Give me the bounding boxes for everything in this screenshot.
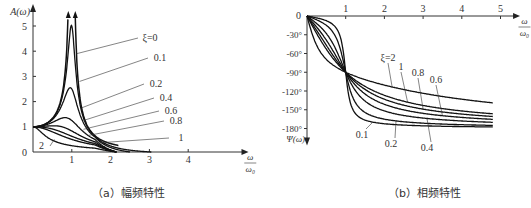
y-tick-label: 0 <box>22 147 27 158</box>
caption-phase: （b）相频特性 <box>388 184 461 200</box>
asymptote-arrow <box>73 11 78 18</box>
label-leader <box>427 118 431 142</box>
x-axis-arrow <box>513 13 520 19</box>
x-tick-label: 2 <box>382 3 387 14</box>
x-tick-label: 4 <box>459 3 464 14</box>
x-tick-label: 2 <box>108 154 113 165</box>
curve-amplitude-xi-1 <box>33 127 116 152</box>
label-leader <box>76 38 138 54</box>
label-leader <box>388 63 392 87</box>
series-label: 2 <box>39 140 44 151</box>
curve-phase-xi-2 <box>307 16 493 103</box>
figure: 1234012345A(ω)ωω₀ξ=00.10.20.40.60.812012… <box>0 0 531 208</box>
x-tick-label: 4 <box>186 154 191 165</box>
amplitude-chart: 1234012345A(ω)ωω₀ξ=00.10.20.40.60.812012… <box>0 0 531 208</box>
y-tick-label: 1 <box>22 121 27 132</box>
y-axis-arrow <box>30 4 36 12</box>
series-label: 0.2 <box>150 78 163 89</box>
x-axis-label-den: ω₀ <box>520 28 529 38</box>
x-tick-label: 1 <box>343 3 348 14</box>
origin-label: 0 <box>296 10 301 21</box>
y-axis-label: Ψ(ω) <box>286 134 305 144</box>
series-label: 1 <box>399 61 404 72</box>
label-leader <box>366 122 373 129</box>
y-axis-label: A(ω) <box>9 6 30 18</box>
label-leader <box>87 121 164 136</box>
label-leader <box>80 58 148 81</box>
x-axis-label-den: ω₀ <box>246 164 255 174</box>
y-tick-label: -60° <box>286 49 302 59</box>
x-axis-label-num: ω <box>247 152 253 162</box>
series-label: 0.4 <box>421 142 434 153</box>
y-tick-label: -90° <box>286 68 302 78</box>
y-tick-label: 2 <box>22 96 27 107</box>
curve-amplitude-xi-0.1 <box>33 25 151 152</box>
y-tick-label: 4 <box>22 46 27 57</box>
caption-amplitude: （a）幅频特性 <box>92 184 165 200</box>
x-axis-label-num: ω <box>521 16 527 26</box>
series-label: 1 <box>179 132 184 143</box>
series-label: 0.1 <box>154 52 167 63</box>
x-tick-label: 3 <box>147 154 152 165</box>
y-tick-label: 3 <box>22 71 27 82</box>
x-tick-label: 5 <box>498 3 503 14</box>
y-tick-label: 5 <box>22 21 27 32</box>
label-leader <box>83 98 154 121</box>
y-tick-label: -120° <box>282 87 302 97</box>
series-label: 0.2 <box>385 138 398 149</box>
series-label: 0.6 <box>430 74 443 85</box>
series-label: 0.1 <box>356 129 369 140</box>
y-tick-label: -150° <box>282 105 302 115</box>
series-label: 0.4 <box>160 92 173 103</box>
label-leader <box>395 121 396 138</box>
curve-amplitude-xi-0 <box>33 19 68 126</box>
series-label: 0.8 <box>412 67 425 78</box>
asymptote-arrow <box>66 11 71 18</box>
y-tick-label: -30° <box>286 30 302 40</box>
label-leader <box>93 138 169 143</box>
label-leader <box>401 72 408 102</box>
x-tick-label: 3 <box>421 3 426 14</box>
series-label: ξ=2 <box>380 52 395 64</box>
series-label: 0.8 <box>170 115 183 126</box>
y-tick-label: -180° <box>282 124 302 134</box>
series-label: ξ=0 <box>142 32 157 44</box>
x-tick-label: 1 <box>69 154 74 165</box>
label-leader <box>83 111 159 129</box>
